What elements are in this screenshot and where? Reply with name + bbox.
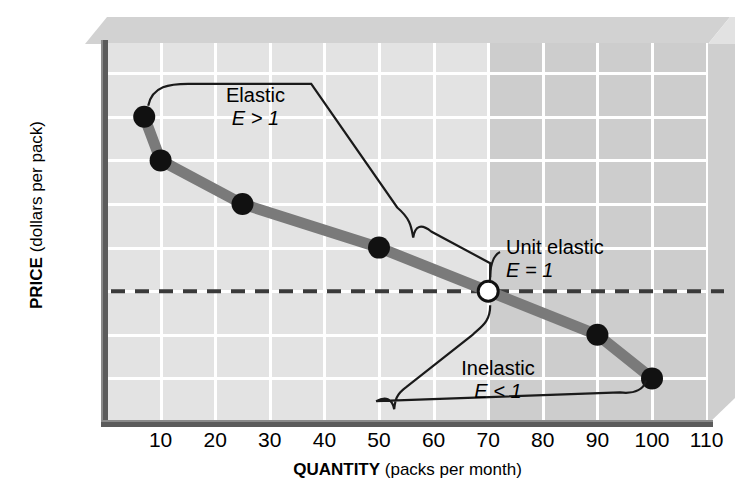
horizontal-gridline bbox=[107, 203, 708, 206]
x-tick-label: 60 bbox=[404, 429, 464, 450]
annotation-unit-elastic-label: Unit elastic bbox=[506, 236, 604, 259]
x-axis-title-rest: (packs per month) bbox=[380, 460, 522, 479]
y-axis-highlight bbox=[101, 40, 103, 427]
horizontal-gridline bbox=[107, 72, 708, 75]
chart-figure: $876543210 102030405060708090100110 PRIC… bbox=[0, 0, 754, 497]
vertical-gridline bbox=[596, 43, 599, 424]
vertical-gridline bbox=[651, 43, 654, 424]
x-tick-label: 80 bbox=[513, 429, 573, 450]
y-axis-title-bold: PRICE bbox=[27, 257, 46, 309]
x-tick-label: 30 bbox=[240, 429, 300, 450]
x-tick-label: 110 bbox=[677, 429, 737, 450]
annotation-elastic: Elastic E > 1 bbox=[226, 84, 285, 130]
x-tick-label: 40 bbox=[294, 429, 354, 450]
x-tick-label: 90 bbox=[567, 429, 627, 450]
x-tick-label: 50 bbox=[349, 429, 409, 450]
x-axis-title: QUANTITY (packs per month) bbox=[107, 460, 708, 480]
vertical-gridline bbox=[323, 43, 326, 424]
vertical-gridline bbox=[378, 43, 381, 424]
x-axis-title-bold: QUANTITY bbox=[293, 460, 380, 479]
annotation-elastic-formula: E > 1 bbox=[226, 107, 285, 130]
annotation-unit-elastic-formula: E = 1 bbox=[506, 259, 604, 282]
x-axis-highlight bbox=[101, 420, 713, 422]
annotation-inelastic-formula: E < 1 bbox=[443, 380, 553, 403]
vertical-gridline bbox=[433, 43, 436, 424]
horizontal-gridline bbox=[107, 334, 708, 337]
horizontal-gridline bbox=[107, 377, 708, 380]
x-tick-label: 20 bbox=[185, 429, 245, 450]
vertical-gridline bbox=[160, 43, 163, 424]
vertical-gridline bbox=[214, 43, 217, 424]
horizontal-gridline bbox=[107, 247, 708, 250]
y-axis-title: PRICE (dollars per pack) bbox=[27, 100, 47, 330]
y-axis-title-rest: (dollars per pack) bbox=[27, 121, 46, 257]
x-tick-label: 10 bbox=[131, 429, 191, 450]
horizontal-gridline bbox=[107, 116, 708, 119]
annotation-elastic-label: Elastic bbox=[226, 84, 285, 107]
x-tick-label: 70 bbox=[458, 429, 518, 450]
annotation-unit-elastic: Unit elastic E = 1 bbox=[506, 236, 604, 282]
y-axis-tick-labels: $876543210 bbox=[0, 0, 96, 497]
horizontal-gridline bbox=[107, 290, 708, 293]
x-tick-label: 100 bbox=[622, 429, 682, 450]
horizontal-gridline bbox=[107, 159, 708, 162]
plot-area bbox=[107, 43, 708, 424]
annotation-inelastic-label: Inelastic bbox=[443, 357, 553, 380]
vertical-gridline bbox=[706, 43, 708, 424]
block-right-face bbox=[708, 43, 735, 424]
block-top-face bbox=[85, 17, 730, 44]
annotation-inelastic: Inelastic E < 1 bbox=[443, 357, 553, 403]
